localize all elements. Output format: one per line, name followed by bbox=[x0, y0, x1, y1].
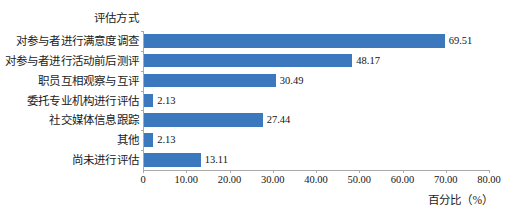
bar-row: 30.49 bbox=[144, 71, 490, 91]
bar bbox=[144, 133, 153, 147]
bar-row: 27.44 bbox=[144, 110, 490, 130]
bar-chart: 评估方式 69.5148.1730.492.1327.442.1313.11 对… bbox=[0, 0, 511, 220]
category-tick bbox=[141, 31, 144, 32]
category-tick bbox=[141, 150, 144, 151]
category-label: 其他 bbox=[0, 133, 139, 147]
value-tick-label: 50.00 bbox=[347, 173, 371, 186]
value-tick-label: 10.00 bbox=[174, 173, 198, 186]
category-tick bbox=[141, 91, 144, 92]
value-tick-label: 80.00 bbox=[477, 173, 501, 186]
category-label: 对参与者进行活动前后测评 bbox=[0, 54, 139, 68]
bar-value-label: 27.44 bbox=[267, 112, 291, 127]
bar-value-label: 30.49 bbox=[280, 73, 304, 88]
bar-row: 2.13 bbox=[144, 91, 490, 111]
bar-value-label: 69.51 bbox=[449, 33, 473, 48]
category-tick bbox=[141, 130, 144, 131]
bar bbox=[144, 74, 276, 88]
plot-area: 69.5148.1730.492.1327.442.1313.11 bbox=[143, 31, 490, 170]
value-tick-label: 60.00 bbox=[391, 173, 415, 186]
bar-value-label: 2.13 bbox=[157, 132, 175, 147]
value-tick-label: 70.00 bbox=[434, 173, 458, 186]
bar bbox=[144, 153, 201, 167]
bar bbox=[144, 54, 352, 68]
value-tick-label: 40.00 bbox=[304, 173, 328, 186]
bar-row: 13.11 bbox=[144, 150, 490, 170]
category-tick bbox=[141, 110, 144, 111]
value-axis-title: 百分比（%） bbox=[428, 193, 493, 207]
bar-row: 2.13 bbox=[144, 130, 490, 150]
bar bbox=[144, 34, 445, 48]
bar bbox=[144, 94, 153, 108]
bar-row: 69.51 bbox=[144, 31, 490, 51]
category-tick bbox=[141, 71, 144, 72]
value-tick-label: 20.00 bbox=[218, 173, 242, 186]
bar bbox=[144, 113, 263, 127]
category-label: 职员互相观察与互评 bbox=[0, 74, 139, 88]
category-axis-title: 评估方式 bbox=[0, 12, 139, 25]
bar-value-label: 2.13 bbox=[157, 93, 175, 108]
category-label: 对参与者进行满意度调查 bbox=[0, 34, 139, 48]
bar-value-label: 48.17 bbox=[356, 53, 380, 68]
category-label: 委托专业机构进行评估 bbox=[0, 94, 139, 108]
value-tick-label: 30.00 bbox=[261, 173, 285, 186]
bar-row: 48.17 bbox=[144, 51, 490, 71]
category-tick bbox=[141, 51, 144, 52]
bar-value-label: 13.11 bbox=[205, 152, 228, 167]
category-label: 尚未进行评估 bbox=[0, 153, 139, 167]
value-tick-label: 0 bbox=[140, 173, 145, 186]
category-label: 社交媒体信息跟踪 bbox=[0, 113, 139, 127]
